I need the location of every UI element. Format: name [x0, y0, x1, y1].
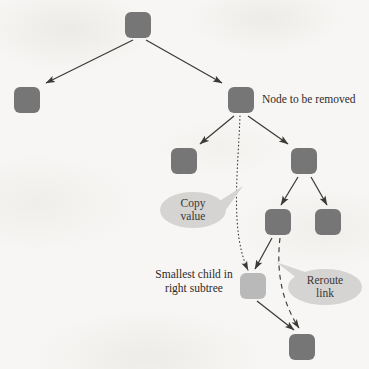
edge-right-to-inner-left: [281, 177, 298, 205]
edge-copy-value-dotted: [237, 116, 249, 270]
node-removed-right-child: [291, 148, 317, 174]
node-removed-left-child: [171, 148, 197, 174]
node-bottom: [289, 334, 315, 360]
edge-smallest-to-bottom: [257, 301, 294, 330]
edge-removed-to-left: [200, 116, 234, 144]
callout-reroute-link-line2: link: [316, 287, 334, 299]
callout-reroute-link-text: Reroute link: [307, 274, 343, 300]
callout-copy-value-text: Copy value: [181, 197, 206, 223]
callout-reroute-link: Reroute link: [288, 269, 362, 305]
callout-copy-value-line2: value: [181, 210, 206, 222]
label-smallest-child-line2: right subtree: [165, 282, 223, 294]
edge-layer: [0, 0, 369, 369]
node-inner-left: [265, 209, 291, 235]
callout-copy-value-line1: Copy: [181, 197, 206, 209]
node-inner-right: [315, 209, 341, 235]
figure-canvas: Copy value Reroute link Node to be remov…: [0, 0, 369, 369]
edge-root-to-removed: [146, 40, 222, 83]
label-smallest-child-in-right-subtree: Smallest child in right subtree: [152, 268, 236, 295]
label-node-to-be-removed-text: Node to be removed: [262, 93, 356, 105]
edge-root-to-left-child: [46, 40, 133, 83]
edge-inner-left-to-smallest: [255, 238, 272, 269]
edge-right-to-inner-right: [311, 177, 327, 205]
node-left-child: [14, 87, 40, 113]
label-smallest-child-line1: Smallest child in: [155, 268, 232, 280]
callout-reroute-link-line1: Reroute: [307, 274, 343, 286]
node-to-be-removed: [228, 87, 254, 113]
callout-copy-value: Copy value: [160, 192, 226, 228]
node-root: [125, 12, 151, 38]
edge-removed-to-right: [248, 116, 288, 144]
label-node-to-be-removed: Node to be removed: [262, 93, 356, 107]
node-smallest-child: [240, 273, 266, 299]
